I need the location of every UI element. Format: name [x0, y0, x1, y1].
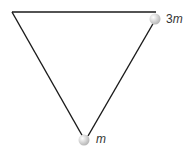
left-rod: [12, 12, 83, 137]
label-m-var: m: [96, 132, 106, 146]
label-3m: 3m: [166, 12, 183, 26]
right-rod: [88, 22, 154, 136]
mass-3m-ball: [150, 14, 161, 25]
mass-m-ball: [79, 135, 90, 146]
label-3m-coeff: 3: [166, 12, 173, 26]
label-m: m: [96, 132, 106, 146]
label-3m-var: m: [173, 12, 183, 26]
